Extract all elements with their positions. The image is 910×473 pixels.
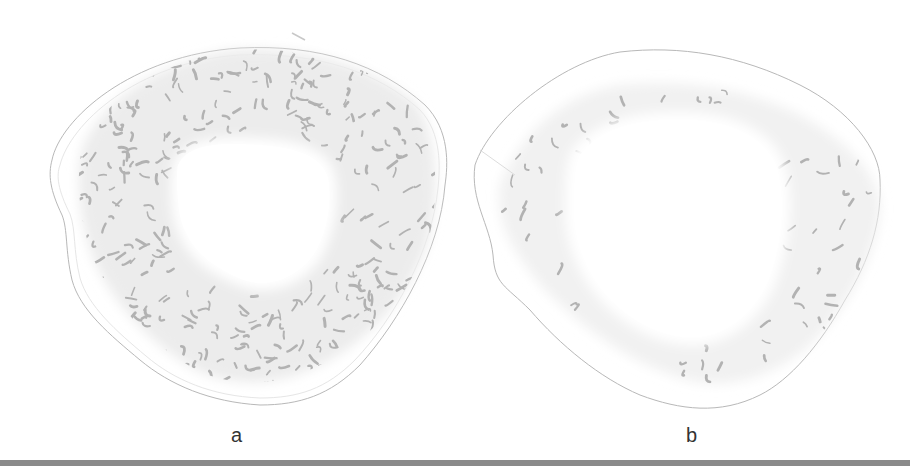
bottom-divider-bar: [0, 460, 910, 466]
panel-a-cross-section: [50, 33, 447, 405]
panel-b-label: b: [686, 424, 697, 447]
panel-a-label: a: [231, 424, 242, 447]
stray-line: [480, 150, 515, 175]
bone-cross-section-figure: [0, 0, 910, 473]
panel-b-cross-section: [474, 50, 880, 408]
stray-mark: [292, 33, 305, 40]
